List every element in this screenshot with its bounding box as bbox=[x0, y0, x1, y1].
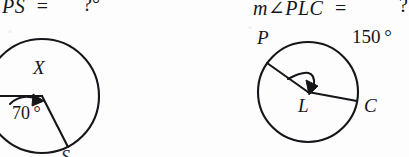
left-equation: PS = bbox=[2, 0, 55, 18]
scan-speckle bbox=[8, 30, 12, 33]
right-equation-lhs: m∠PLC bbox=[253, 0, 323, 19]
right-equation: m∠PLC = bbox=[253, 0, 353, 20]
right-radius-lp bbox=[267, 63, 308, 92]
right-equation-equals: = bbox=[335, 0, 347, 19]
left-radius-b bbox=[42, 96, 68, 147]
right-point-label-c: C bbox=[364, 95, 377, 117]
right-angle-label: 150 ° bbox=[352, 26, 392, 48]
left-circle bbox=[0, 39, 99, 153]
left-equation-answer: ?° bbox=[83, 0, 100, 16]
right-angle-arrowhead bbox=[306, 80, 318, 95]
right-angle-arrow bbox=[288, 73, 314, 85]
worksheet-page: PS = ?° X 70 ° S m∠PLC = ? bbox=[0, 0, 409, 157]
scan-speckle bbox=[248, 26, 252, 29]
right-figure bbox=[0, 0, 409, 157]
left-equation-lhs: PS bbox=[2, 0, 25, 17]
right-point-label-p: P bbox=[257, 27, 269, 49]
left-angle-label: 70 ° bbox=[12, 103, 41, 124]
left-interior-label-x: X bbox=[33, 57, 45, 79]
left-equation-equals: = bbox=[37, 0, 49, 17]
right-center-label-l: L bbox=[298, 95, 309, 117]
right-circle bbox=[258, 42, 358, 142]
left-figure bbox=[0, 0, 409, 157]
right-radius-lc bbox=[308, 92, 357, 101]
left-point-label-s: S bbox=[61, 147, 70, 157]
right-equation-answer: ? bbox=[399, 0, 408, 17]
